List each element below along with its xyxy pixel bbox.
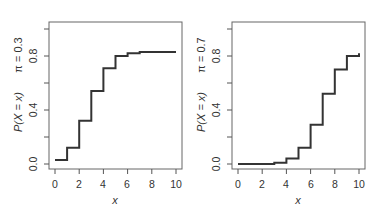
y-axis [227, 29, 232, 164]
chart-panel-pi-0.3: 0.0 0.4 0.8 P(X = x) π = 0.3 0 2 4 6 8 1… [12, 22, 182, 206]
x-axis-title: x [111, 194, 118, 206]
y-tick-label-2: 0.8 [210, 49, 222, 64]
x-tick-label-5: 10 [170, 178, 182, 190]
x-tick-label-1: 2 [259, 178, 265, 190]
y-tick-label-2: 0.8 [27, 49, 39, 64]
y-tick-label-0: 0.0 [210, 157, 222, 172]
y-tick-label-1: 0.4 [27, 103, 39, 118]
pi-label: π = 0.3 [12, 37, 24, 72]
y-axis-title-text: P(X = x) [12, 92, 24, 132]
x-axis [238, 169, 359, 174]
figure: 0.0 0.4 0.8 P(X = x) π = 0.3 0 2 4 6 8 1… [0, 0, 385, 211]
y-axis-title-text: P(X = x) [195, 92, 207, 132]
x-tick-label-4: 8 [332, 178, 338, 190]
chart-panel-pi-0.7: 0.0 0.4 0.8 P(X = x) π = 0.7 0 2 4 6 8 1… [195, 22, 365, 206]
x-tick-label-2: 4 [283, 178, 289, 190]
x-tick-label-0: 0 [52, 178, 58, 190]
x-axis [55, 169, 176, 174]
x-tick-label-0: 0 [235, 178, 241, 190]
cdf-step-line [238, 53, 359, 164]
x-tick-label-3: 6 [124, 178, 130, 190]
pi-label: π = 0.7 [195, 37, 207, 72]
x-tick-label-3: 6 [308, 178, 314, 190]
x-tick-label-2: 4 [100, 178, 106, 190]
y-axis-title: P(X = x) [195, 92, 207, 132]
cdf-step-line [55, 52, 176, 160]
y-axis-title: P(X = x) [12, 92, 24, 132]
y-tick-label-1: 0.4 [210, 103, 222, 118]
x-tick-label-4: 8 [149, 178, 155, 190]
y-tick-label-0: 0.0 [27, 157, 39, 172]
x-tick-label-1: 2 [76, 178, 82, 190]
y-axis [44, 29, 49, 164]
x-tick-label-5: 10 [353, 178, 365, 190]
x-axis-title: x [294, 194, 301, 206]
